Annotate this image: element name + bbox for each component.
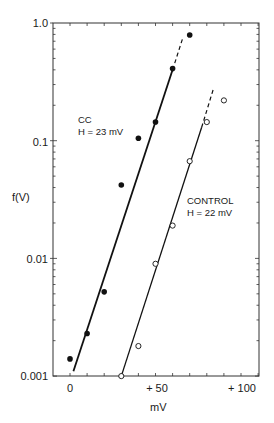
cc-data-point bbox=[170, 66, 176, 72]
control-data-point bbox=[170, 223, 175, 228]
x-tick-label-50: + 50 bbox=[146, 382, 168, 394]
cc-data-point bbox=[136, 135, 142, 141]
plot-area bbox=[0, 0, 274, 423]
control-series-label: CONTROL bbox=[187, 195, 233, 207]
control-data-point bbox=[153, 261, 158, 266]
y-tick-label-1: 1.0 bbox=[2, 17, 48, 29]
x-tick-label-100: + 100 bbox=[228, 382, 256, 394]
y-tick-label-0.001: 0.001 bbox=[2, 370, 48, 382]
control-fit-line-solid bbox=[121, 127, 201, 376]
y-tick-label-0.1: 0.1 bbox=[2, 136, 48, 148]
y-axis-label: f(V) bbox=[12, 191, 30, 203]
control-hill-coefficient: H = 22 mV bbox=[187, 207, 232, 219]
control-data-point bbox=[187, 159, 192, 164]
cc-data-point bbox=[119, 182, 125, 188]
cc-hill-coefficient: H = 23 mV bbox=[78, 126, 123, 138]
cc-data-point bbox=[67, 356, 73, 362]
x-tick-label-0: 0 bbox=[67, 382, 73, 394]
cc-data-point bbox=[84, 331, 90, 337]
cc-data-point bbox=[153, 119, 159, 125]
control-data-point bbox=[119, 374, 124, 379]
cc-data-point bbox=[101, 289, 107, 295]
cc-series-label: CC bbox=[78, 114, 92, 126]
control-data-point bbox=[204, 119, 209, 124]
cc-fit-line-dashed bbox=[173, 38, 183, 70]
control-data-point bbox=[136, 343, 141, 348]
control-data-point bbox=[221, 98, 226, 103]
cc-data-point bbox=[187, 32, 193, 38]
y-tick-label-0.01: 0.01 bbox=[2, 253, 48, 265]
x-axis-label: mV bbox=[150, 401, 167, 413]
